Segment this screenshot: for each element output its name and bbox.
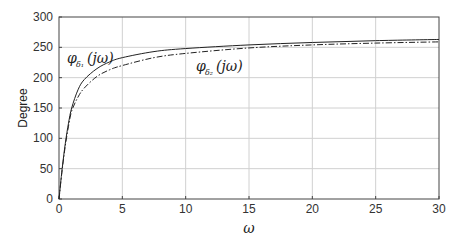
y-tick-label: 250 — [33, 40, 53, 54]
x-tick-label: 25 — [369, 202, 383, 216]
y-axis-label: Degree — [16, 88, 30, 128]
x-tick-label: 5 — [119, 202, 126, 216]
y-tick-label: 50 — [40, 162, 54, 176]
x-tick-label: 15 — [242, 202, 256, 216]
line-chart: 050100150200250300 051015202530 Degree ω… — [0, 0, 462, 243]
y-axis-ticks: 050100150200250300 — [33, 10, 62, 206]
y-tick-label: 200 — [33, 71, 53, 85]
y-tick-label: 0 — [46, 192, 53, 206]
x-tick-label: 30 — [432, 202, 446, 216]
y-tick-label: 300 — [33, 10, 53, 24]
series2-annotation-subscript: δ₂ — [205, 68, 213, 77]
x-tick-label: 20 — [306, 202, 320, 216]
series1-annotation-arg: (jω) — [87, 50, 114, 66]
series1-annotation-subscript: δ₁ — [76, 60, 84, 69]
x-tick-label: 0 — [56, 202, 63, 216]
series1-annotation: φ δ₁ (jω) — [67, 50, 114, 69]
x-tick-label: 10 — [179, 202, 193, 216]
series2-annotation: φ δ₂ (jω) — [196, 58, 243, 77]
y-tick-label: 150 — [33, 101, 53, 115]
x-axis-label: ω — [243, 220, 255, 236]
y-tick-label: 100 — [33, 131, 53, 145]
series2-annotation-arg: (jω) — [216, 58, 243, 74]
grid-lines — [59, 17, 439, 199]
